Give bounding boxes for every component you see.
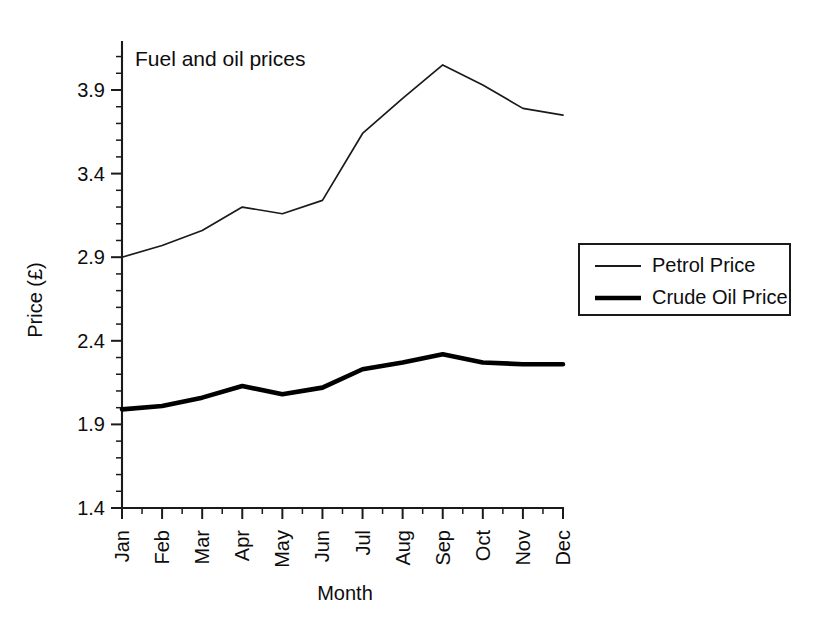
x-tick-label: Oct [472, 530, 494, 562]
x-tick-label: Nov [512, 530, 534, 566]
x-tick-label: Aug [392, 530, 414, 566]
y-tick-label: 2.9 [77, 246, 105, 268]
line-chart: 1.41.92.42.93.43.9 JanFebMarAprMayJunJul… [0, 0, 830, 624]
x-tick-label: Feb [151, 530, 173, 564]
x-tick-label: Sep [432, 530, 454, 566]
y-axis-title: Price (£) [24, 262, 46, 338]
x-tick-label: Jun [311, 530, 333, 562]
x-tick-label: Apr [231, 530, 253, 561]
y-tick-label: 3.9 [77, 79, 105, 101]
y-axis: 1.41.92.42.93.43.9 [77, 42, 122, 519]
x-tick-label: Jul [352, 530, 374, 556]
x-tick-label: Mar [191, 530, 213, 565]
legend-label-petrol-price: Petrol Price [652, 254, 755, 276]
series-line-petrol-price [122, 65, 563, 257]
x-axis-title: Month [317, 582, 373, 604]
legend: Petrol Price Crude Oil Price [579, 244, 790, 315]
y-tick-label: 1.9 [77, 413, 105, 435]
series-line-crude-oil-price [122, 354, 563, 409]
chart-container: 1.41.92.42.93.43.9 JanFebMarAprMayJunJul… [0, 0, 830, 624]
y-tick-label: 3.4 [77, 163, 105, 185]
series-group [122, 65, 563, 409]
x-axis: JanFebMarAprMayJunJulAugSepOctNovDec [111, 508, 574, 568]
legend-label-crude-oil-price: Crude Oil Price [652, 286, 788, 308]
x-tick-label: May [271, 530, 293, 568]
y-tick-label: 2.4 [77, 330, 105, 352]
x-tick-label: Jan [111, 530, 133, 562]
x-tick-label: Dec [552, 530, 574, 566]
y-tick-label: 1.4 [77, 497, 105, 519]
chart-title: Fuel and oil prices [135, 47, 305, 70]
